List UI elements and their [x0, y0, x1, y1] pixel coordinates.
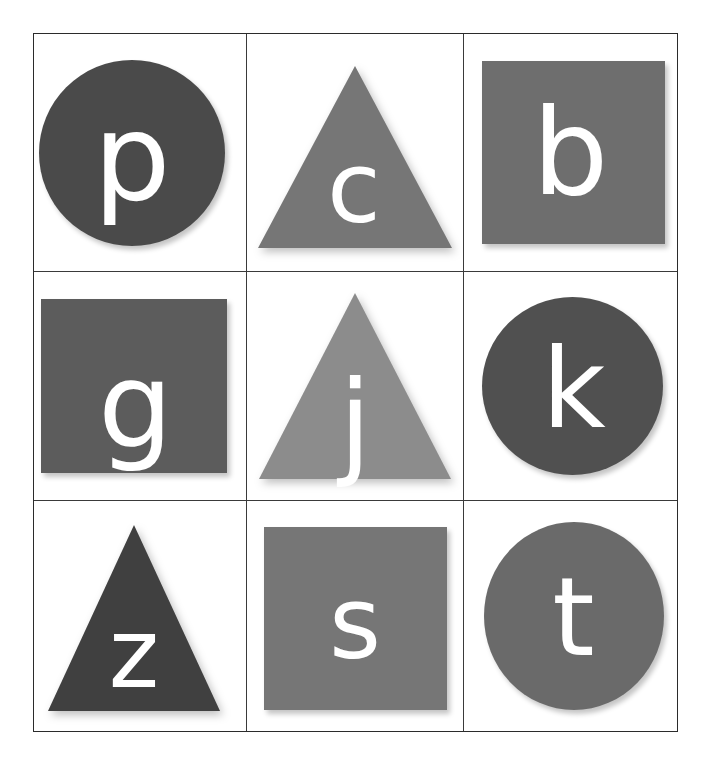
shape-wrap-j: j	[257, 291, 453, 481]
shape-wrap-p: p	[39, 60, 225, 246]
grid-cell-k[interactable]: k	[464, 272, 677, 501]
grid-cell-c[interactable]: c	[247, 34, 464, 272]
letter-glyph: c	[327, 139, 381, 237]
grid-cell-b[interactable]: b	[464, 34, 677, 272]
grid-cell-j[interactable]: j	[247, 272, 464, 501]
grid-cell-p[interactable]: p	[34, 34, 247, 272]
shape-wrap-b: b	[482, 61, 665, 244]
letter-glyph: p	[93, 96, 170, 218]
shape-wrap-s: s	[264, 527, 447, 710]
letter-glyph: s	[329, 574, 381, 674]
letter-glyph: z	[109, 606, 159, 702]
shape-wrap-g: g	[41, 299, 227, 473]
letter-glyph: t	[552, 564, 594, 672]
letter-glyph: k	[542, 334, 606, 444]
shape-wrap-z: z	[46, 523, 222, 713]
grid-cell-z[interactable]: z	[34, 501, 247, 731]
letter-glyph: j	[339, 365, 371, 481]
letter-glyph: b	[532, 93, 608, 213]
grid-cell-t[interactable]: t	[464, 501, 677, 731]
shape-wrap-c: c	[256, 64, 454, 250]
shape-wrap-k: k	[482, 297, 663, 475]
letter-glyph: g	[98, 346, 173, 464]
shape-letter-grid: p c b g j k	[33, 33, 678, 732]
grid-cell-g[interactable]: g	[34, 272, 247, 501]
grid-cell-s[interactable]: s	[247, 501, 464, 731]
shape-wrap-t: t	[484, 522, 664, 710]
